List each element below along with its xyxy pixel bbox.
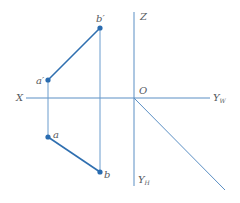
miter-line bbox=[134, 98, 225, 190]
label-a-prime: a′ bbox=[36, 75, 45, 86]
label-x-axis: X bbox=[15, 92, 24, 103]
yw-subscript: W bbox=[220, 97, 227, 104]
label-yw-axis: YW bbox=[213, 92, 227, 104]
label-a: a bbox=[53, 129, 59, 140]
point-b-prime bbox=[97, 25, 102, 30]
label-b: b bbox=[104, 169, 110, 180]
label-z-axis: Z bbox=[139, 11, 148, 22]
point-a-prime bbox=[45, 77, 50, 82]
point-a bbox=[45, 134, 50, 139]
label-yh-axis: YH bbox=[138, 174, 151, 186]
label-b-prime: b′ bbox=[96, 13, 105, 24]
projection-diagram: b′ a′ a b X Z O YW YH bbox=[0, 0, 240, 203]
point-b bbox=[97, 169, 102, 174]
front-view-segment bbox=[48, 28, 100, 80]
top-view-segment bbox=[48, 137, 100, 172]
yh-subscript: H bbox=[144, 179, 151, 186]
label-origin: O bbox=[139, 85, 147, 96]
